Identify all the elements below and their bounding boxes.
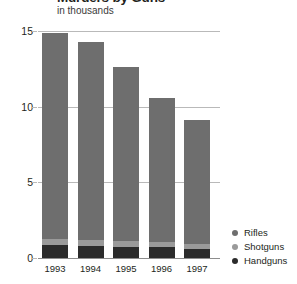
bar-1996: [149, 98, 175, 258]
bar-1994: [78, 42, 104, 258]
legend-label: Rifles: [244, 227, 268, 238]
legend-label: Handguns: [244, 255, 287, 266]
y-tick-label-15: 15: [7, 26, 33, 36]
legend-swatch-icon: [232, 230, 238, 236]
bar-segment-rifles-1997: [184, 120, 210, 244]
x-tick-label-1994: 1994: [74, 263, 108, 274]
legend-item-handguns: Handguns: [232, 254, 296, 267]
y-tick-label-10: 10: [7, 102, 33, 112]
bar-segment-rifles-1993: [42, 33, 68, 240]
bar-segment-rifles-1995: [113, 67, 139, 240]
chart-subtitle: in thousands: [57, 5, 114, 17]
y-tick-mark-5: [32, 182, 37, 183]
plot-area: [38, 31, 220, 258]
x-tick-label-1997: 1997: [180, 263, 214, 274]
bar-segment-handguns-1997: [184, 249, 210, 258]
chart-legend: RiflesShotgunsHandguns: [232, 226, 296, 268]
y-tick-mark-10: [32, 107, 37, 108]
x-tick-label-1993: 1993: [38, 263, 72, 274]
legend-item-shotguns: Shotguns: [232, 240, 296, 253]
chart-container: Murders by Guns in thousands 051015 1993…: [0, 0, 297, 284]
legend-swatch-icon: [232, 258, 238, 264]
bar-segment-rifles-1996: [149, 98, 175, 243]
bar-segment-handguns-1994: [78, 246, 104, 258]
gridline-0: [38, 258, 220, 259]
bar-1995: [113, 67, 139, 258]
bar-1997: [184, 120, 210, 258]
x-tick-label-1995: 1995: [109, 263, 143, 274]
bar-segment-handguns-1993: [42, 245, 68, 258]
y-tick-mark-15: [32, 31, 37, 32]
bar-segment-rifles-1994: [78, 42, 104, 240]
y-tick-label-5: 5: [7, 177, 33, 187]
legend-item-rifles: Rifles: [232, 226, 296, 239]
bar-segment-handguns-1996: [149, 247, 175, 258]
bar-segment-handguns-1995: [113, 247, 139, 258]
bar-1993: [42, 33, 68, 258]
legend-label: Shotguns: [244, 241, 284, 252]
x-tick-label-1996: 1996: [145, 263, 179, 274]
y-tick-label-0: 0: [7, 253, 33, 263]
legend-swatch-icon: [232, 244, 238, 250]
y-tick-mark-0: [32, 258, 37, 259]
